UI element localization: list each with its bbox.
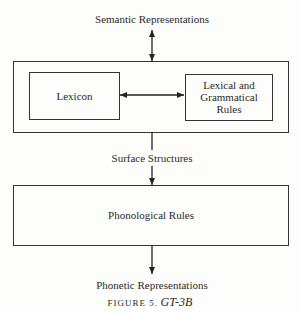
phonological-rules-box: Phonological Rules	[13, 185, 289, 246]
caption-title: GT-3B	[161, 295, 193, 309]
lexical-grammatical-rules-box: Lexical and Grammatical Rules	[185, 74, 273, 121]
surface-structures-label: Surface Structures	[112, 152, 193, 164]
caption-prefix: FIGURE 5.	[108, 298, 159, 308]
figure-caption: FIGURE 5. GT-3B	[108, 295, 193, 310]
rules-label-line3: Rules	[186, 103, 272, 115]
lexicon-label: Lexicon	[30, 90, 119, 102]
phonetic-representations-label: Phonetic Representations	[96, 279, 208, 291]
rules-label: Lexical and Grammatical Rules	[186, 79, 272, 115]
semantic-representations-label: Semantic Representations	[95, 13, 209, 25]
lexicon-box: Lexicon	[29, 72, 120, 120]
phonological-rules-label: Phonological Rules	[14, 209, 288, 221]
rules-label-line2: Grammatical	[186, 91, 272, 103]
rules-label-line1: Lexical and	[186, 79, 272, 91]
